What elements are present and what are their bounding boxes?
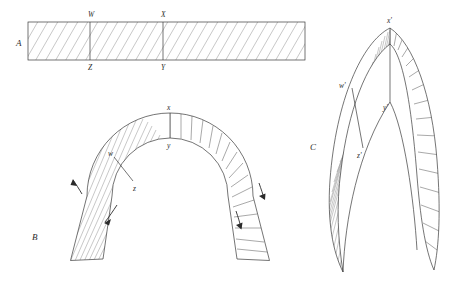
- panel-b-point-z: z: [132, 184, 136, 193]
- panel-a-point-z: Z: [88, 63, 93, 72]
- panel-b: B w x y z: [32, 103, 270, 281]
- panel-b-arrow-upper-left: [71, 179, 83, 194]
- panel-b-arrow-upper-right: [259, 183, 266, 200]
- panel-c-point-z-prime: z': [356, 151, 362, 160]
- panel-c-point-x-prime: x': [386, 16, 392, 25]
- panel-c-label: C: [310, 142, 317, 152]
- panel-a-point-y: Y: [161, 63, 166, 72]
- panel-c: C w' x' y' z': [310, 16, 441, 285]
- panel-a-point-w: W: [88, 10, 95, 19]
- panel-b-point-x: x: [166, 103, 171, 112]
- panel-a-hatching: [0, 0, 355, 70]
- panel-c-point-w-prime: w': [339, 81, 346, 90]
- panel-b-right-rules: [170, 113, 267, 252]
- panel-a-label: A: [15, 38, 22, 48]
- panel-b-arrow-lower-right: [236, 211, 243, 230]
- panel-b-left-hatching: [47, 111, 171, 281]
- panel-a: A W X Z Y: [0, 0, 355, 72]
- panel-b-point-w: w: [108, 149, 113, 158]
- panel-c-point-y-prime: y': [382, 103, 388, 112]
- panel-b-point-y: y: [166, 141, 171, 150]
- figure-root: A W X Z Y: [0, 0, 461, 286]
- panel-c-inner-right: [390, 44, 434, 270]
- panel-b-left-leg: [71, 196, 113, 261]
- panel-b-wz-joint: [114, 157, 133, 181]
- panel-c-soffit: [343, 102, 417, 272]
- panel-a-point-x: X: [160, 10, 166, 19]
- panel-b-label: B: [32, 232, 38, 242]
- figure-canvas: A W X Z Y: [0, 0, 461, 286]
- panel-c-outer-left: [329, 28, 390, 272]
- panel-c-right-rules: [390, 28, 441, 250]
